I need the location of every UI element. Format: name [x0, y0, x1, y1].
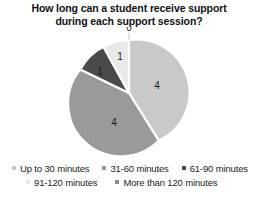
legend-swatch-icon-61-90-minutes [182, 166, 186, 170]
legend-swatch-icon-up-to-30-minutes [12, 166, 16, 170]
legend-row-2: 91-120 minutes More than 120 minutes [0, 175, 258, 189]
legend-item-31-60-minutes[interactable]: 31-60 minutes [102, 163, 168, 174]
legend-item-up-to-30-minutes[interactable]: Up to 30 minutes [12, 163, 89, 174]
pie-label-61-90-minutes: 1 [97, 66, 103, 77]
chart-title-line-1: How long can a student receive support [8, 2, 250, 15]
legend-label-up-to-30-minutes: Up to 30 minutes [20, 163, 89, 174]
chart-title-line-2: during each support session? [8, 15, 250, 28]
pie-svg: 4 4 1 1 0 [58, 27, 200, 159]
legend-item-more-than-120-minutes[interactable]: More than 120 minutes [115, 177, 217, 188]
pie-label-91-120-minutes: 1 [117, 51, 123, 62]
pie-label-31-60-minutes: 4 [111, 117, 117, 128]
legend-label-more-than-120-minutes: More than 120 minutes [123, 177, 217, 188]
pie-chart-figure: How long can a student receive support d… [0, 0, 258, 203]
legend-label-91-120-minutes: 91-120 minutes [34, 177, 97, 188]
legend-label-61-90-minutes: 61-90 minutes [190, 163, 248, 174]
legend-swatch-icon-more-than-120-minutes [115, 180, 119, 184]
legend-row-1: Up to 30 minutes 31-60 minutes 61-90 min… [0, 161, 258, 175]
pie-label-more-than-120-minutes: 0 [126, 27, 132, 33]
chart-legend: Up to 30 minutes 31-60 minutes 61-90 min… [0, 161, 258, 189]
legend-swatch-icon-91-120-minutes [26, 180, 30, 184]
legend-item-61-90-minutes[interactable]: 61-90 minutes [182, 163, 248, 174]
legend-label-31-60-minutes: 31-60 minutes [110, 163, 168, 174]
legend-swatch-icon-31-60-minutes [102, 166, 106, 170]
chart-title: How long can a student receive support d… [8, 2, 250, 27]
legend-item-91-120-minutes[interactable]: 91-120 minutes [26, 177, 97, 188]
pie-plot-area: 4 4 1 1 0 [58, 27, 200, 159]
pie-label-up-to-30-minutes: 4 [154, 80, 160, 91]
